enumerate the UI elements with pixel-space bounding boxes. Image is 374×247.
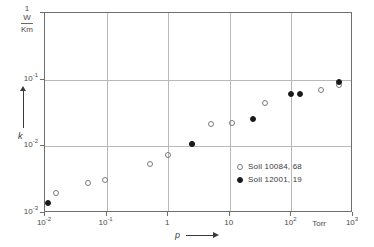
plot-area <box>44 12 352 212</box>
y-axis-tick <box>40 79 44 80</box>
data-point-series-1 <box>262 100 268 106</box>
legend-label: Soil 12001, 19 <box>248 175 302 184</box>
data-point-series-1 <box>147 161 153 167</box>
x-axis-tick-label: 102 <box>284 219 296 227</box>
x-axis-tick-label: 10-2 <box>37 219 51 227</box>
data-point-series-2 <box>45 200 51 206</box>
x-axis-tick-label: 10 <box>224 219 233 227</box>
data-point-series-1 <box>208 121 214 127</box>
x-axis-tick <box>352 212 353 216</box>
y-axis-title: k <box>18 131 23 141</box>
legend-marker-filled-circle-icon <box>236 174 248 186</box>
y-axis-tick-label: 10-1 <box>8 75 38 83</box>
y-axis-unit-denominator: Km <box>21 23 33 34</box>
y-axis-unit-top: 1 <box>14 4 40 13</box>
gridline-horizontal <box>45 80 351 81</box>
data-point-series-2 <box>288 91 294 97</box>
data-point-series-1 <box>318 87 324 93</box>
y-axis-unit-fraction: W Km <box>21 13 33 34</box>
x-axis-tick <box>106 212 107 216</box>
y-axis-tick-label: 10-2 <box>8 141 38 149</box>
data-point-series-1 <box>165 152 171 158</box>
x-axis-tick <box>44 212 45 216</box>
x-axis-tick <box>167 212 168 216</box>
data-point-series-1 <box>53 190 59 196</box>
x-axis-tick-label: 10-1 <box>98 219 112 227</box>
legend-item: Soil 10084, 68 <box>236 160 302 173</box>
chart-figure: 1 W Km k p Torr 10-210-1110102103 110-11… <box>0 0 374 247</box>
legend-marker-open-circle-icon <box>236 161 248 173</box>
y-axis-tick-label: 10-3 <box>8 208 38 216</box>
data-point-series-2 <box>189 141 195 147</box>
legend-label: Soil 10084, 68 <box>248 162 302 171</box>
x-axis-tick <box>229 212 230 216</box>
x-axis-tick-label: 103 <box>346 219 358 227</box>
gridline-vertical <box>230 13 231 211</box>
y-axis-tick <box>40 145 44 146</box>
x-axis-tick-label: 1 <box>165 219 169 227</box>
gridline-vertical <box>168 13 169 211</box>
legend-item: Soil 12001, 19 <box>236 173 302 186</box>
x-axis-tick <box>290 212 291 216</box>
y-axis-unit-numerator: W <box>21 13 33 22</box>
data-point-series-1 <box>102 177 108 183</box>
data-point-series-2 <box>336 79 342 85</box>
legend: Soil 10084, 68 Soil 12001, 19 <box>236 160 302 186</box>
y-axis-tick <box>40 12 44 13</box>
data-point-series-1 <box>85 180 91 186</box>
data-point-series-2 <box>297 91 303 97</box>
y-axis-tick <box>40 212 44 213</box>
data-point-series-2 <box>250 116 256 122</box>
y-axis-arrow-icon <box>23 90 24 128</box>
x-axis-title: p <box>175 230 180 240</box>
y-axis-unit-block: 1 W Km <box>14 4 40 35</box>
x-axis-unit-label: Torr <box>312 219 326 228</box>
data-point-series-1 <box>229 120 235 126</box>
x-axis-arrow-icon <box>186 235 214 236</box>
gridline-horizontal <box>45 146 351 147</box>
